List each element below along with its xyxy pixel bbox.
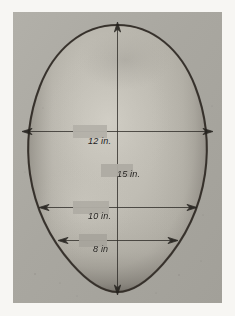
dimension-label-base-girth: 8 in [93,245,108,254]
dimension-label-height: 15 in. [117,170,140,179]
photo-plate: 12 in. 15 in. 10 in. 8 in [13,12,222,303]
dimension-label-major-girth: 12 in. [88,137,111,146]
egg-diagram-svg [13,12,222,303]
figure-root: 12 in. 15 in. 10 in. 8 in [0,0,235,316]
dimension-label-lower-girth: 10 in. [88,212,111,221]
